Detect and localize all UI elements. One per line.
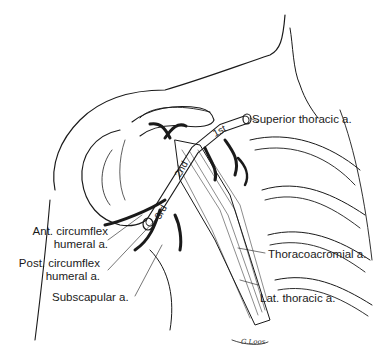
label-lat-thoracic: Lat. thoracic a. bbox=[260, 292, 335, 305]
label-ant-circumflex-line1: Ant. circumflex bbox=[8, 225, 108, 238]
label-subscapular: Subscapular a. bbox=[52, 291, 129, 304]
label-post-circumflex-line1: Post. circumflex bbox=[0, 257, 100, 270]
label-superior-thoracic: Superior thoracic a. bbox=[252, 113, 352, 126]
label-post-circumflex-line2: humeral a. bbox=[0, 270, 100, 283]
artist-signature: G.Loos bbox=[241, 338, 265, 346]
label-ant-circumflex-line2: humeral a. bbox=[8, 238, 108, 251]
anatomy-figure: 1st 2nd 3rd Superior thoracic a. Ant. ci… bbox=[0, 0, 383, 356]
label-thoracoacromial: Thoracoacromial a. bbox=[268, 248, 366, 261]
